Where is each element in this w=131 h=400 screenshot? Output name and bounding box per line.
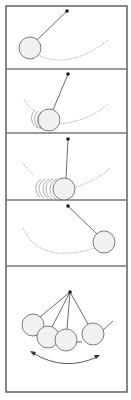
swing-path: [76, 168, 110, 187]
pendulum-rod: [70, 292, 88, 324]
pivot-point: [65, 9, 69, 13]
panel-3: [23, 137, 110, 200]
pivot-point: [66, 137, 70, 141]
swing-path: [23, 163, 33, 175]
pendulum-rod: [68, 206, 97, 234]
pivot-point: [66, 72, 70, 76]
pendulum-bob: [82, 323, 104, 345]
pendulum-bob: [38, 109, 60, 131]
pendulum-rod: [37, 11, 67, 40]
swing-path: [23, 228, 95, 253]
pendulum-bob: [93, 231, 115, 253]
pendulum-rod: [103, 321, 113, 330]
panel-2: [24, 72, 108, 131]
pivot-point: [66, 204, 70, 208]
swing-path: [38, 40, 108, 60]
swing-path: [24, 100, 33, 110]
swing-path: [61, 104, 108, 124]
pivot-point: [68, 290, 72, 294]
pendulum-rod: [53, 74, 68, 110]
pendulum-bob: [55, 329, 77, 351]
panel-5: [22, 290, 113, 363]
pendulum-bob: [53, 178, 75, 200]
swing-direction-arrow: [33, 353, 97, 364]
arrowhead-left-icon: [30, 351, 36, 356]
motion-trail: [39, 179, 45, 198]
pendulum-rod: [40, 292, 70, 317]
pendulum-rod: [66, 139, 68, 178]
pendulum-diagram: [0, 0, 131, 400]
panel-4: [23, 204, 115, 253]
pendulum-bob: [19, 37, 41, 59]
panel-1: [19, 9, 108, 60]
